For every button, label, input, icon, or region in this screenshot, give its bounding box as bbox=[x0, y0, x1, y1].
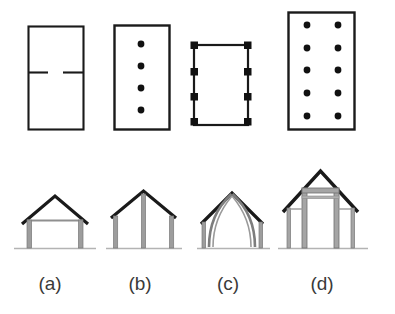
section-d-collar-beam bbox=[302, 196, 339, 199]
plan-c-post bbox=[244, 42, 252, 50]
plan-b-column bbox=[138, 63, 145, 70]
plan-c-perimeter-posts bbox=[191, 42, 252, 126]
plan-c-post bbox=[191, 93, 199, 101]
plan-a-partition bbox=[29, 27, 84, 130]
plan-c-post bbox=[191, 68, 199, 76]
section-a-post-left bbox=[27, 220, 32, 248]
section-a-post-right bbox=[78, 220, 83, 248]
section-c-wall-left bbox=[202, 222, 206, 248]
plan-a-outline bbox=[29, 27, 84, 130]
plan-d-column bbox=[335, 90, 342, 97]
section-b-post-left bbox=[114, 216, 118, 248]
plan-d-column bbox=[304, 90, 311, 97]
plan-b-column bbox=[138, 41, 145, 48]
section-b-post-right bbox=[170, 216, 174, 248]
section-b-king-post bbox=[141, 194, 145, 248]
plan-d-two-rows-posts bbox=[289, 13, 355, 130]
plan-d-column bbox=[304, 113, 311, 120]
plan-c-post bbox=[244, 118, 252, 126]
panel-label-d: (d) bbox=[310, 273, 333, 294]
plan-c-outline bbox=[194, 45, 248, 125]
plan-d-column bbox=[335, 67, 342, 74]
plan-b-central-posts bbox=[115, 26, 170, 130]
plan-b-column bbox=[138, 107, 145, 114]
section-d-aisle-post-right bbox=[351, 208, 355, 248]
typology-figure: (a) (b) (c) (d) bbox=[0, 0, 395, 314]
plan-d-column bbox=[304, 22, 311, 29]
section-c-wall-right bbox=[259, 222, 263, 248]
panel-label-a: (a) bbox=[38, 273, 61, 294]
plan-c-post bbox=[244, 68, 252, 76]
plan-b-column bbox=[138, 85, 145, 92]
plan-c-post bbox=[191, 42, 199, 50]
plan-c-post bbox=[244, 93, 252, 101]
plan-d-column bbox=[304, 45, 311, 52]
section-d-aisle-post-left bbox=[287, 208, 291, 248]
plan-d-column bbox=[335, 113, 342, 120]
plan-d-column bbox=[335, 22, 342, 29]
plan-d-outline bbox=[289, 13, 355, 130]
panel-label-b: (b) bbox=[128, 273, 151, 294]
figure-root: (a) (b) (c) (d) bbox=[0, 0, 395, 314]
plan-d-column bbox=[335, 45, 342, 52]
section-d-tie-beam bbox=[302, 188, 339, 193]
plan-c-post bbox=[191, 118, 199, 126]
plan-d-column bbox=[304, 67, 311, 74]
panel-label-c: (c) bbox=[217, 273, 239, 294]
